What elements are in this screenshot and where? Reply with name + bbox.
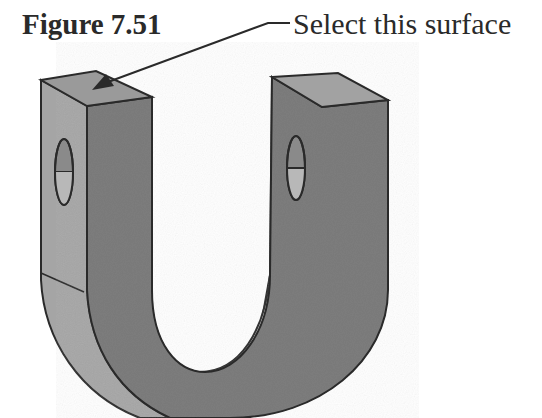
right-hole <box>287 136 305 200</box>
u-bracket-drawing <box>0 0 542 418</box>
front-u-face <box>87 77 388 418</box>
left-hole <box>55 139 73 205</box>
leader-arrow <box>92 23 290 90</box>
